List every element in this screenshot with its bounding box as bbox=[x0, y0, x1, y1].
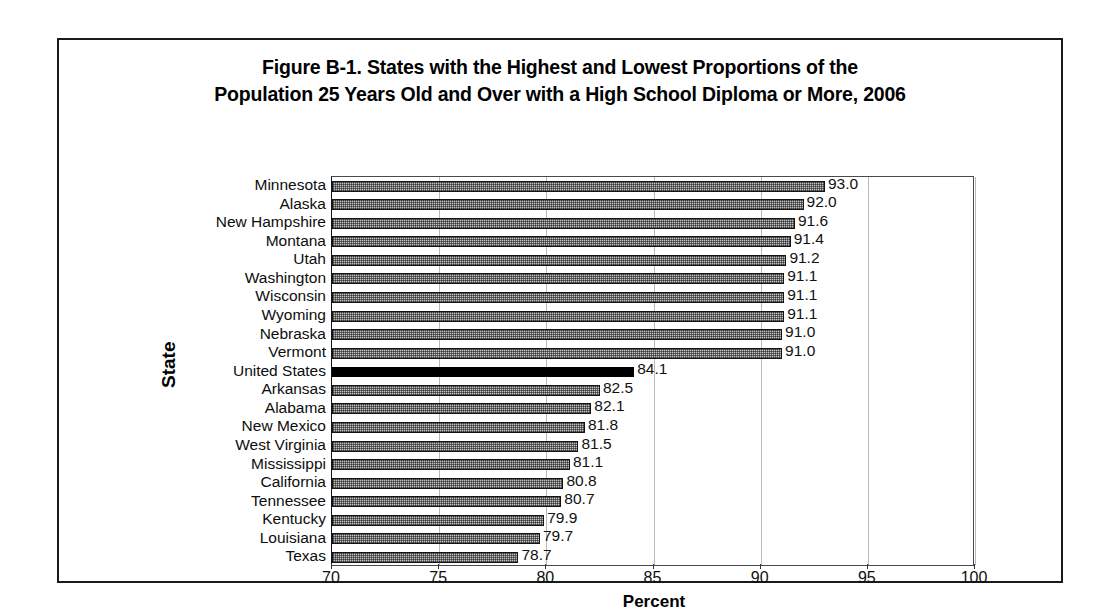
y-axis-tick-label: Washington bbox=[245, 269, 326, 288]
bar-value-label: 80.7 bbox=[564, 491, 594, 507]
x-axis-title: Percent bbox=[554, 592, 754, 611]
bar-row: 80.8 bbox=[332, 474, 973, 493]
y-axis-tick-labels: MinnesotaAlaskaNew HampshireMontanaUtahW… bbox=[179, 176, 329, 566]
bar-row: 92.0 bbox=[332, 196, 973, 215]
y-axis-tick-label: Wisconsin bbox=[255, 287, 326, 306]
bar[interactable] bbox=[332, 292, 784, 303]
x-axis-tick-mark bbox=[653, 564, 654, 569]
bar-row: 84.1 bbox=[332, 363, 973, 382]
bar[interactable] bbox=[332, 459, 570, 470]
y-axis-tick-label: Utah bbox=[293, 250, 326, 269]
bar-value-label: 78.7 bbox=[521, 547, 551, 563]
bars-group: 93.092.091.691.491.291.191.191.191.091.0… bbox=[332, 177, 973, 565]
bar-value-label: 79.7 bbox=[543, 528, 573, 544]
bar-row: 91.0 bbox=[332, 326, 973, 345]
y-axis-tick-label: New Mexico bbox=[242, 417, 326, 436]
x-axis-tick-mark bbox=[974, 564, 975, 569]
y-axis-tick-label: Alabama bbox=[265, 399, 326, 418]
bar[interactable] bbox=[332, 218, 795, 229]
bar-value-label: 91.0 bbox=[785, 324, 815, 340]
y-axis-tick-label: Alaska bbox=[279, 195, 326, 214]
bar[interactable] bbox=[332, 478, 563, 489]
y-axis-tick-label: West Virginia bbox=[235, 436, 326, 455]
y-axis-tick-label: Arkansas bbox=[261, 380, 326, 399]
bar[interactable] bbox=[332, 552, 518, 563]
y-axis-tick-label: Kentucky bbox=[262, 510, 326, 529]
y-axis-tick-label: Louisiana bbox=[260, 529, 326, 548]
bar[interactable] bbox=[332, 273, 784, 284]
bar[interactable] bbox=[332, 181, 825, 192]
bar[interactable] bbox=[332, 515, 544, 526]
bar[interactable] bbox=[332, 385, 600, 396]
bar-value-label: 82.1 bbox=[594, 398, 624, 414]
bar-value-label: 93.0 bbox=[828, 176, 858, 192]
bar[interactable] bbox=[332, 403, 591, 414]
figure-frame: Figure B-1. States with the Highest and … bbox=[57, 38, 1063, 583]
bar-row: 93.0 bbox=[332, 177, 973, 196]
bar-value-label: 84.1 bbox=[637, 361, 667, 377]
y-axis-tick-label: California bbox=[261, 473, 326, 492]
bar-value-label: 91.4 bbox=[794, 231, 824, 247]
x-axis-tick-label: 75 bbox=[429, 569, 447, 587]
chart-title: Figure B-1. States with the Highest and … bbox=[59, 54, 1061, 108]
y-axis-tick-label: Minnesota bbox=[254, 176, 326, 195]
bar-row: 91.2 bbox=[332, 251, 973, 270]
x-axis-tick-label: 80 bbox=[536, 569, 554, 587]
bar[interactable] bbox=[332, 422, 585, 433]
bar-value-label: 80.8 bbox=[566, 473, 596, 489]
bar-row: 91.1 bbox=[332, 270, 973, 289]
y-axis-tick-label: Wyoming bbox=[262, 306, 326, 325]
bar-value-label: 91.1 bbox=[787, 268, 817, 284]
x-axis-tick-mark bbox=[867, 564, 868, 569]
bar-value-label: 81.1 bbox=[573, 454, 603, 470]
bar-value-label: 79.9 bbox=[547, 510, 577, 526]
x-axis-tick-mark bbox=[331, 564, 332, 569]
x-axis-tick-label: 90 bbox=[751, 569, 769, 587]
y-axis-tick-label: Mississippi bbox=[251, 455, 326, 474]
bar-row: 91.1 bbox=[332, 307, 973, 326]
bar[interactable] bbox=[332, 348, 782, 359]
bar-row: 79.9 bbox=[332, 511, 973, 530]
bar-row: 79.7 bbox=[332, 530, 973, 549]
bar-value-label: 82.5 bbox=[603, 380, 633, 396]
x-axis-tick-label: 95 bbox=[858, 569, 876, 587]
bar-value-label: 91.1 bbox=[787, 287, 817, 303]
bar-row: 91.1 bbox=[332, 288, 973, 307]
bar-row: 81.1 bbox=[332, 456, 973, 475]
bar-value-label: 81.8 bbox=[588, 417, 618, 433]
x-axis-tick-label: 70 bbox=[322, 569, 340, 587]
bar[interactable] bbox=[332, 533, 540, 544]
y-axis-tick-label: Nebraska bbox=[260, 325, 326, 344]
y-axis-tick-label: United States bbox=[233, 362, 326, 381]
y-axis-tick-label: Vermont bbox=[268, 343, 326, 362]
y-axis-tick-label: Montana bbox=[266, 232, 326, 251]
bar[interactable] bbox=[332, 255, 786, 266]
bar[interactable] bbox=[332, 329, 782, 340]
bar-row: 91.6 bbox=[332, 214, 973, 233]
bar-value-label: 91.2 bbox=[789, 250, 819, 266]
x-axis-tick-mark bbox=[545, 564, 546, 569]
bar-row: 80.7 bbox=[332, 493, 973, 512]
bar-row: 91.4 bbox=[332, 233, 973, 252]
bar-row: 81.5 bbox=[332, 437, 973, 456]
y-axis-tick-label: Texas bbox=[286, 547, 327, 566]
gridline bbox=[975, 177, 976, 565]
bar-row: 82.5 bbox=[332, 381, 973, 400]
bar[interactable] bbox=[332, 199, 804, 210]
bar[interactable] bbox=[332, 441, 578, 452]
x-axis-tick-label: 85 bbox=[644, 569, 662, 587]
chart-title-line-2: Population 25 Years Old and Over with a … bbox=[59, 81, 1061, 108]
x-axis-tick-label: 100 bbox=[961, 569, 988, 587]
x-axis-tick-labels: 707580859095100 bbox=[331, 569, 974, 593]
y-axis-tick-label: Tennessee bbox=[251, 492, 326, 511]
bar-value-label: 91.1 bbox=[787, 306, 817, 322]
bar[interactable] bbox=[332, 236, 791, 247]
bar[interactable] bbox=[332, 367, 634, 377]
bar-value-label: 92.0 bbox=[807, 194, 837, 210]
bar-value-label: 91.0 bbox=[785, 343, 815, 359]
bar[interactable] bbox=[332, 496, 561, 507]
chart-title-line-1: Figure B-1. States with the Highest and … bbox=[59, 54, 1061, 81]
y-axis-tick-label: New Hampshire bbox=[216, 213, 326, 232]
bar[interactable] bbox=[332, 311, 784, 322]
x-axis-tick-mark bbox=[760, 564, 761, 569]
